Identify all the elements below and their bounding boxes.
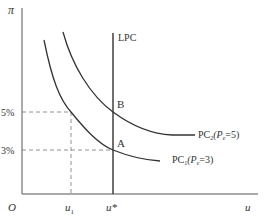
point-a-label: A [117, 137, 125, 149]
pc1-label: PC1(Pe=3) [172, 154, 213, 166]
pc1-curve [44, 40, 160, 161]
pc2-curve [63, 32, 195, 135]
y-tick-3pct: 3% [1, 145, 14, 156]
origin-label: O [8, 201, 16, 213]
x-tick-ustar: u* [106, 201, 118, 213]
lpc-label: LPC [118, 32, 137, 43]
x-axis-label: u [245, 201, 251, 213]
pc2-label: PC2(Pe=5) [198, 129, 239, 141]
x-tick-u1: u1 [65, 201, 75, 216]
y-axis-label: π [8, 3, 15, 17]
point-b-label: B [117, 98, 124, 110]
y-tick-5pct: 5% [1, 107, 14, 118]
phillips-curve-diagram: π u O LPC B A 5% 3% u1 u* PC2(Pe=5) PC1(… [0, 0, 264, 222]
